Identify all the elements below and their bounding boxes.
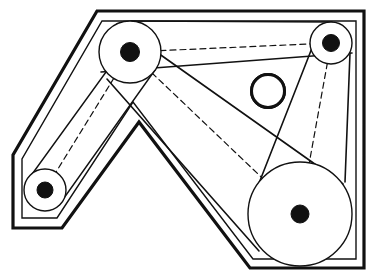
pulley-bottom-right (248, 162, 352, 266)
pulley-bottom-left-hub (37, 182, 53, 198)
pulley-top-right (310, 22, 352, 64)
belt-drive-diagram: Belt drive mechanism with four pulleys a… (0, 0, 374, 279)
pulley-bottom-left (24, 169, 66, 211)
belt-drive-canvas: Belt drive mechanism with four pulleys a… (0, 0, 374, 279)
pulley-top-left-hub (121, 43, 140, 62)
idler-roller-outline (252, 75, 285, 108)
pulley-bottom-right-hub (291, 205, 309, 223)
belt-top-left-to-top-right-upper (131, 21, 332, 22)
pulley-top-right-hub (323, 35, 340, 52)
pulley-top-left (99, 21, 161, 83)
